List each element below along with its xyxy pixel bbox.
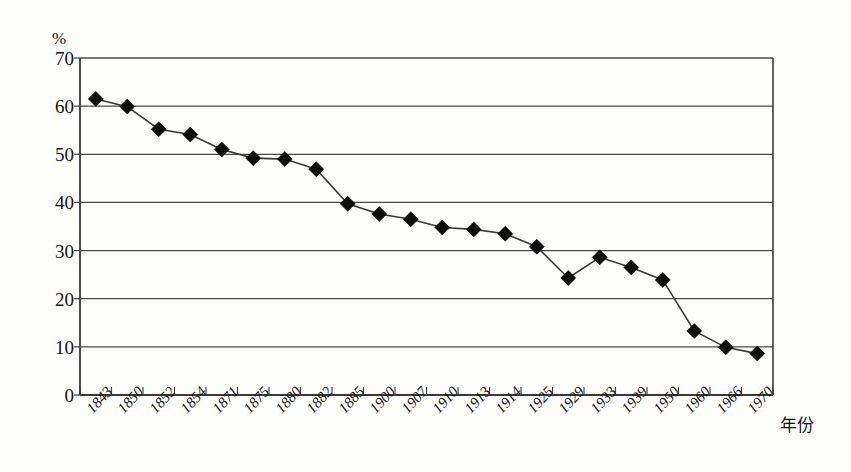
x-axis-tick-label: 1871: [210, 384, 241, 416]
x-axis-tick-label: 1907: [399, 384, 430, 416]
x-axis-tick-label: 1850: [115, 384, 146, 416]
x-axis-tick-label: 1925: [525, 384, 556, 416]
x-axis-tick-label: 1960: [682, 384, 713, 416]
x-axis-tick-label: 1843: [84, 384, 115, 416]
x-axis-tick-label: 1875: [241, 384, 272, 416]
x-axis-tick-label: 1914: [493, 384, 524, 416]
x-axis-tick-label: 1970: [745, 384, 776, 416]
x-axis-tick-label: 1910: [430, 384, 461, 416]
x-axis-tick-label: 1900: [367, 384, 398, 416]
x-axis-tick-label: 1852: [147, 384, 178, 416]
x-axis-tick-label: 1939: [619, 384, 650, 416]
x-axis-tick-label: 1950: [651, 384, 682, 416]
x-axis-tick-label: 1913: [462, 384, 493, 416]
x-axis-tick-labels: 1843185018521854187118751880188218851900…: [0, 0, 851, 472]
x-axis-title: 年份: [780, 417, 814, 434]
x-axis-tick-label: 1854: [178, 384, 209, 416]
x-axis-tick-label: 1929: [556, 384, 587, 416]
chart-figure: % 010203040506070 1843185018521854187118…: [0, 0, 851, 472]
x-axis-tick-label: 1885: [336, 384, 367, 416]
x-axis-tick-label: 1880: [273, 384, 304, 416]
x-axis-tick-label: 1933: [588, 384, 619, 416]
x-axis-tick-label: 1882: [304, 384, 335, 416]
x-axis-tick-label: 1966: [714, 384, 745, 416]
